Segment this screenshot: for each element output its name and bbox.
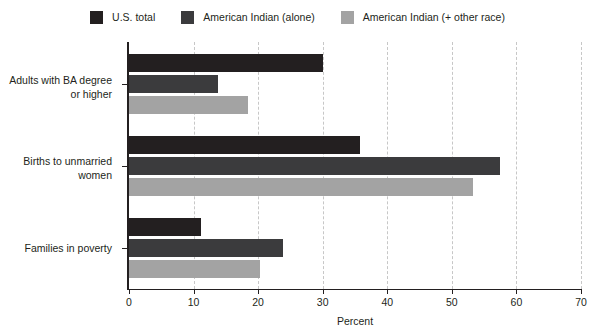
- xtick-10: [194, 289, 195, 294]
- bar-births-unmarried-us-total: [129, 136, 360, 154]
- legend-swatch-american-indian-alone: [181, 11, 194, 24]
- bar-families-poverty-us-total: [129, 218, 201, 236]
- legend-item-american-indian-alone: American Indian (alone): [181, 11, 314, 24]
- xticklabel-50: 50: [446, 296, 458, 308]
- xtick-70: [581, 289, 582, 294]
- xticklabel-30: 30: [317, 296, 329, 308]
- bar-adults-ba-american-indian-other-race: [129, 96, 248, 114]
- bar-families-poverty-american-indian-other-race: [129, 260, 260, 278]
- xticklabel-60: 60: [511, 296, 523, 308]
- x-axis-line: [127, 289, 581, 290]
- xtick-20: [258, 289, 259, 294]
- legend-label-american-indian-alone: American Indian (alone): [203, 11, 314, 24]
- xticklabel-70: 70: [575, 296, 587, 308]
- gridline-60: [516, 42, 517, 289]
- x-axis-title: Percent: [129, 315, 581, 327]
- category-label-adults-ba: Adults with BA degree or higher: [0, 74, 112, 101]
- category-label-line: Families in poverty: [0, 242, 112, 256]
- xtick-60: [516, 289, 517, 294]
- bar-adults-ba-american-indian-alone: [129, 75, 218, 93]
- xtick-30: [323, 289, 324, 294]
- category-label-births-unmarried: Births to unmarried women: [0, 155, 112, 182]
- xticklabel-40: 40: [381, 296, 393, 308]
- ytick-adults-ba: [122, 84, 129, 85]
- bar-chart: U.S. total American Indian (alone) Ameri…: [0, 0, 595, 332]
- xticklabel-10: 10: [188, 296, 200, 308]
- category-label-families-poverty: Families in poverty: [0, 242, 112, 256]
- legend-swatch-american-indian-other-race: [341, 11, 354, 24]
- ytick-births-unmarried: [122, 166, 129, 167]
- bar-births-unmarried-american-indian-other-race: [129, 178, 473, 196]
- legend-item-american-indian-other-race: American Indian (+ other race): [341, 11, 505, 24]
- xtick-0: [129, 289, 130, 294]
- plot-area: 0 10 20 30 40 50 60 70 Percent: [127, 42, 581, 289]
- bar-births-unmarried-american-indian-alone: [129, 157, 500, 175]
- legend-label-us-total: U.S. total: [112, 11, 155, 24]
- xticklabel-20: 20: [252, 296, 264, 308]
- legend-swatch-us-total: [90, 11, 103, 24]
- category-label-line: or higher: [0, 88, 112, 102]
- xtick-40: [387, 289, 388, 294]
- xtick-50: [452, 289, 453, 294]
- category-label-line: women: [0, 169, 112, 183]
- category-label-line: Adults with BA degree: [0, 74, 112, 88]
- bar-adults-ba-us-total: [129, 54, 323, 72]
- bar-families-poverty-american-indian-alone: [129, 239, 283, 257]
- xticklabel-0: 0: [126, 296, 132, 308]
- category-label-line: Births to unmarried: [0, 155, 112, 169]
- chart-legend: U.S. total American Indian (alone) Ameri…: [0, 11, 595, 24]
- ytick-families-poverty: [122, 248, 129, 249]
- gridline-70: [581, 42, 582, 289]
- legend-label-american-indian-other-race: American Indian (+ other race): [363, 11, 505, 24]
- legend-item-us-total: U.S. total: [90, 11, 155, 24]
